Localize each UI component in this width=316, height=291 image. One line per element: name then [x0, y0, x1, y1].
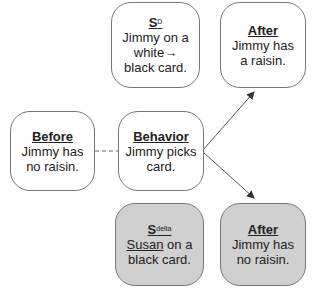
sdelta-sup: delta	[156, 225, 171, 232]
sdelta-line1-rest: on a	[163, 237, 192, 252]
after-bottom-line1: Jimmy has	[232, 237, 294, 252]
sd-sup: D	[157, 18, 162, 25]
behavior-line2: card.	[147, 159, 176, 174]
after-bottom-title: After	[248, 222, 278, 237]
arrow-to-after-top	[203, 92, 254, 150]
sd-box: SD Jimmy on a white→ black card.	[111, 2, 200, 88]
after-top-line2: a raisin.	[240, 53, 286, 68]
behavior-line1: Jimmy picks	[126, 144, 197, 159]
before-line2: no raisin.	[26, 159, 79, 174]
sdelta-box: Sdelta Susan on a black card.	[115, 203, 204, 286]
after-top-line1: Jimmy has	[232, 38, 294, 53]
before-box: Before Jimmy has no raisin.	[10, 111, 95, 191]
sdelta-name: Susan	[127, 237, 164, 252]
behavior-box: Behavior Jimmy picks card.	[118, 111, 204, 191]
after-bottom-line2: no raisin.	[237, 252, 290, 267]
sd-line1: Jimmy on a	[122, 30, 188, 45]
before-line1: Jimmy has	[21, 144, 83, 159]
after-top-box: After Jimmy has a raisin.	[220, 2, 306, 88]
sd-line2: white→	[134, 45, 177, 60]
before-title: Before	[32, 129, 73, 144]
sdelta-line2: black card.	[128, 252, 191, 267]
after-top-title: After	[248, 23, 278, 38]
arrow-to-after-bottom	[203, 152, 254, 198]
sdelta-title: S	[148, 222, 157, 237]
sd-title: S	[149, 15, 158, 30]
behavior-title: Behavior	[133, 129, 189, 144]
after-bottom-box: After Jimmy has no raisin.	[220, 203, 306, 286]
sd-line3: black card.	[124, 60, 187, 75]
